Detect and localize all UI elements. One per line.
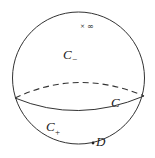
equator-front-solid — [15, 96, 144, 111]
upper-region-label: C — [63, 47, 72, 62]
lower-region-label: C — [46, 119, 55, 134]
infinity-cross-icon: × — [80, 22, 85, 29]
lower-region-subscript: + — [55, 127, 60, 137]
curve-label: C — [111, 95, 120, 110]
sphere-outline — [13, 12, 145, 144]
point-d-label: D — [95, 134, 106, 149]
upper-region-subscript: − — [72, 54, 77, 64]
point-d-dot — [92, 142, 95, 145]
riemann-sphere-diagram: × ∞ C − C C + D — [0, 0, 155, 158]
equator-back-dashed — [15, 82, 144, 98]
infinity-label: ∞ — [87, 22, 94, 31]
